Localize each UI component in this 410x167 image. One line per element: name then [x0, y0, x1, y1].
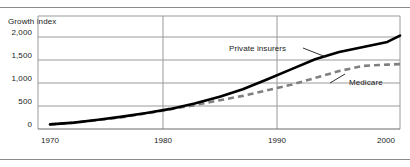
vertical-gridlines [163, 16, 277, 129]
series-line-private-insurers [50, 36, 400, 125]
series-annotation-private-insurers: Private insurers [229, 44, 286, 53]
growth-index-line-chart: Growth index 2,000 1,500 1,000 500 0 Pri… [0, 0, 410, 167]
leader-line-private-insurers [303, 48, 326, 57]
leader-line-medicare [330, 74, 345, 83]
x-tick-label-2000: 2000 [366, 136, 406, 145]
x-tick-label-1970: 1970 [30, 136, 70, 145]
x-tick-label-1980: 1980 [143, 136, 183, 145]
x-tick-label-1990: 1990 [257, 136, 297, 145]
series-annotation-medicare: Medicare [349, 78, 383, 87]
figure-bottom-rule [0, 159, 410, 160]
